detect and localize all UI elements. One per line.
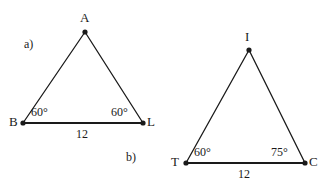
vertex-dot-l bbox=[140, 120, 145, 125]
angle-label-t: 60° bbox=[194, 146, 211, 158]
vertex-dot-b bbox=[20, 120, 25, 125]
vertex-dot-c bbox=[302, 160, 307, 165]
vertex-label-c: C bbox=[309, 155, 318, 168]
angle-label-c: 75° bbox=[271, 146, 288, 158]
vertex-label-t: T bbox=[171, 155, 179, 168]
side-label-tc: 12 bbox=[238, 168, 250, 180]
angle-label-l: 60° bbox=[111, 106, 128, 118]
geometry-figure: a) b) A B L 60° 60° 12 I T C 60° 75° 12 bbox=[0, 0, 326, 182]
vertex-dot-a bbox=[82, 29, 87, 34]
part-label-a: a) bbox=[24, 38, 33, 50]
side-label-bl: 12 bbox=[76, 128, 88, 140]
vertex-label-i: I bbox=[245, 30, 249, 43]
vertex-label-b: B bbox=[9, 115, 18, 128]
angle-label-b: 60° bbox=[31, 106, 48, 118]
vertex-label-l: L bbox=[147, 115, 155, 128]
vertex-label-a: A bbox=[80, 11, 89, 24]
vertex-dot-i bbox=[246, 47, 251, 52]
part-label-b: b) bbox=[126, 151, 136, 163]
vertex-dot-t bbox=[183, 160, 188, 165]
